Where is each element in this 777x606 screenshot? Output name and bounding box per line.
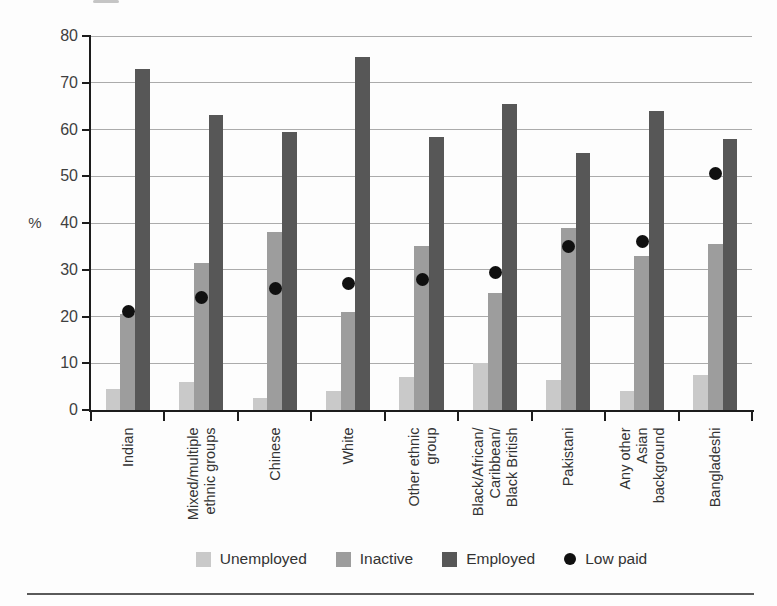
bar-employed-2 <box>282 132 297 410</box>
y-tick-40 <box>82 222 89 224</box>
bar-unemployed-7 <box>620 391 635 410</box>
legend-label-unemployed: Unemployed <box>220 550 307 568</box>
bar-employed-7 <box>649 111 664 410</box>
x-tick-7 <box>604 412 606 421</box>
bar-inactive-4 <box>414 246 429 410</box>
x-axis-label-0: Indian <box>91 427 164 557</box>
y-tick-label-10: 10 <box>36 354 78 372</box>
y-tick-label-20: 20 <box>36 308 78 326</box>
bar-inactive-5 <box>488 293 503 410</box>
x-axis-label-4: Other ethnic group <box>385 427 458 557</box>
bar-employed-8 <box>723 139 738 410</box>
x-axis-label-text-3: White <box>340 427 357 464</box>
x-tick-9 <box>751 412 753 421</box>
x-tick-0 <box>90 412 92 421</box>
x-axis-label-text-4: Other ethnic group <box>405 427 439 506</box>
y-tick-label-70: 70 <box>36 74 78 92</box>
x-tick-2 <box>237 412 239 421</box>
bar-unemployed-1 <box>179 382 194 410</box>
x-axis-label-5: Black/African/ Caribbean/ Black British <box>458 427 531 557</box>
y-tick-30 <box>82 269 89 271</box>
x-tick-5 <box>457 412 459 421</box>
bar-inactive-3 <box>341 312 356 410</box>
x-tick-6 <box>531 412 533 421</box>
x-tick-1 <box>163 412 165 421</box>
x-tick-4 <box>384 412 386 421</box>
bar-unemployed-4 <box>399 377 414 410</box>
x-axis-label-text-2: Chinese <box>266 427 283 480</box>
legend-item-unemployed: Unemployed <box>196 550 307 568</box>
bar-employed-4 <box>429 137 444 410</box>
x-axis-label-1: Mixed/multiple ethnic groups <box>165 427 238 557</box>
y-tick-50 <box>82 175 89 177</box>
x-axis-label-text-6: Pakistani <box>560 427 577 486</box>
x-axis-label-6: Pakistani <box>532 427 605 557</box>
x-axis-line <box>89 410 754 412</box>
x-tick-3 <box>310 412 312 421</box>
x-axis-label-text-1: Mixed/multiple ethnic groups <box>184 427 218 520</box>
x-axis-label-8: Bangladeshi <box>679 427 752 557</box>
bar-inactive-0 <box>120 314 135 410</box>
bar-unemployed-0 <box>106 389 121 410</box>
x-axis-label-7: Any other Asian background <box>605 427 678 557</box>
plot-area <box>91 36 752 410</box>
legend-swatch-inactive <box>336 552 351 567</box>
y-tick-60 <box>82 129 89 131</box>
y-tick-label-30: 30 <box>36 261 78 279</box>
x-axis-label-2: Chinese <box>238 427 311 557</box>
y-tick-label-80: 80 <box>36 27 78 45</box>
y-tick-20 <box>82 316 89 318</box>
bar-inactive-1 <box>194 263 209 410</box>
chart: % 01020304050607080 IndianMixed/multiple… <box>0 0 777 606</box>
bar-inactive-7 <box>634 256 649 410</box>
y-tick-label-60: 60 <box>36 121 78 139</box>
legend-label-low-paid: Low paid <box>585 550 647 568</box>
x-axis-label-text-5: Black/African/ Caribbean/ Black British <box>469 427 520 516</box>
bar-employed-5 <box>502 104 517 410</box>
page: % 01020304050607080 IndianMixed/multiple… <box>0 0 777 606</box>
bar-unemployed-3 <box>326 391 341 410</box>
y-tick-80 <box>82 35 89 37</box>
bar-unemployed-6 <box>546 380 561 410</box>
bar-employed-3 <box>355 57 370 410</box>
marker-low-paid-2 <box>269 282 282 295</box>
bar-employed-1 <box>209 115 224 410</box>
x-axis-label-text-0: Indian <box>119 427 136 467</box>
scan-artifact <box>93 0 119 3</box>
y-axis-line <box>89 35 91 412</box>
gridline-80 <box>91 36 752 37</box>
legend: UnemployedInactiveEmployedLow paid <box>91 548 752 570</box>
y-tick-label-40: 40 <box>36 214 78 232</box>
bottom-rule-divider <box>27 593 754 595</box>
x-axis-label-3: White <box>312 427 385 557</box>
x-tick-8 <box>678 412 680 421</box>
y-tick-label-0: 0 <box>36 401 78 419</box>
marker-low-paid-8 <box>709 167 722 180</box>
marker-low-paid-7 <box>636 235 649 248</box>
marker-low-paid-5 <box>489 266 502 279</box>
y-tick-70 <box>82 82 89 84</box>
y-tick-10 <box>82 362 89 364</box>
bar-employed-0 <box>135 69 150 410</box>
bar-unemployed-2 <box>253 398 268 410</box>
bar-inactive-8 <box>708 244 723 410</box>
legend-item-inactive: Inactive <box>336 550 413 568</box>
bar-inactive-2 <box>267 232 282 410</box>
legend-item-employed: Employed <box>442 550 535 568</box>
x-axis-label-text-8: Bangladeshi <box>707 427 724 507</box>
marker-low-paid-4 <box>416 273 429 286</box>
legend-item-low-paid: Low paid <box>564 550 647 568</box>
bar-inactive-6 <box>561 228 576 410</box>
bar-unemployed-5 <box>473 363 488 410</box>
y-tick-label-50: 50 <box>36 167 78 185</box>
x-axis-label-text-7: Any other Asian background <box>616 427 667 503</box>
bar-unemployed-8 <box>693 375 708 410</box>
legend-swatch-unemployed <box>196 552 211 567</box>
bar-employed-6 <box>576 153 591 410</box>
y-tick-0 <box>82 409 89 411</box>
gridline-70 <box>91 82 752 83</box>
marker-low-paid-0 <box>122 305 135 318</box>
legend-label-employed: Employed <box>466 550 535 568</box>
legend-marker-low-paid <box>564 553 576 565</box>
legend-swatch-employed <box>442 552 457 567</box>
